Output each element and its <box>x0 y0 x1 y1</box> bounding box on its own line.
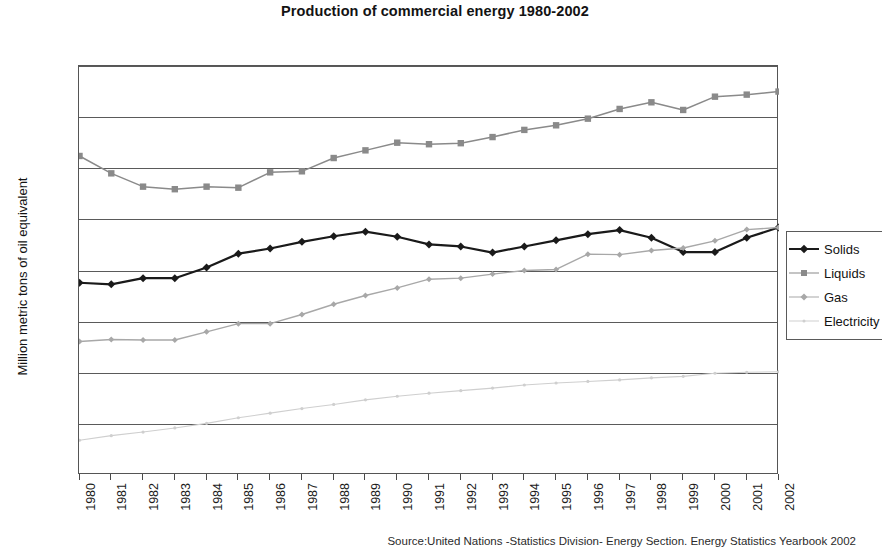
data-point <box>172 337 178 343</box>
data-point <box>394 285 400 291</box>
x-tick-mark <box>110 474 111 480</box>
data-point <box>299 168 305 174</box>
data-point <box>427 392 430 395</box>
data-point <box>140 183 146 189</box>
data-point <box>554 381 557 384</box>
chart-legend: SolidsLiquidsGasElectricity <box>786 231 882 340</box>
data-point <box>364 398 367 401</box>
x-axis: 1980198119821983198419851986198719881989… <box>78 474 778 544</box>
x-tick-label: 1993 <box>497 483 511 511</box>
x-tick-mark <box>682 474 683 480</box>
legend-label: Gas <box>824 290 848 305</box>
x-tick-label: 1995 <box>560 483 574 511</box>
data-point <box>266 245 274 253</box>
data-point <box>173 426 176 429</box>
data-point <box>362 147 368 153</box>
legend-item-electricity[interactable]: Electricity <box>787 309 882 333</box>
data-point <box>459 389 462 392</box>
data-point <box>426 276 432 282</box>
x-tick-mark <box>237 474 238 480</box>
x-tick-mark <box>333 474 334 480</box>
data-point <box>79 339 83 345</box>
data-point <box>458 140 464 146</box>
data-point <box>394 139 400 145</box>
data-point <box>361 228 369 236</box>
x-tick-mark <box>778 474 779 480</box>
x-tick-mark <box>619 474 620 480</box>
data-point <box>79 279 84 287</box>
x-tick-label: 1980 <box>84 483 98 511</box>
data-point <box>648 248 654 254</box>
x-tick-mark <box>142 474 143 480</box>
data-point <box>490 271 496 277</box>
legend-swatch-icon <box>789 243 819 255</box>
x-tick-label: 1984 <box>211 483 225 511</box>
x-tick-label: 2000 <box>719 483 733 511</box>
x-tick-label: 1991 <box>433 483 447 511</box>
data-point <box>362 293 368 299</box>
x-tick-label: 1988 <box>338 483 352 511</box>
data-point <box>140 337 146 343</box>
data-point <box>172 186 178 192</box>
data-point <box>520 242 528 250</box>
x-tick-mark <box>460 474 461 480</box>
data-point <box>552 236 560 244</box>
data-point <box>235 321 241 327</box>
data-point <box>237 416 240 419</box>
x-tick-label: 1998 <box>655 483 669 511</box>
x-tick-label: 2002 <box>783 483 797 511</box>
x-tick-label: 2001 <box>751 483 765 511</box>
data-point <box>458 275 464 281</box>
legend-label: Solids <box>824 242 859 257</box>
x-tick-mark <box>587 474 588 480</box>
x-tick-label: 1983 <box>179 483 193 511</box>
legend-item-solids[interactable]: Solids <box>787 237 882 261</box>
x-tick-mark <box>492 474 493 480</box>
data-point <box>267 169 273 175</box>
x-tick-label: 1982 <box>147 483 161 511</box>
data-point <box>141 430 144 433</box>
legend-item-gas[interactable]: Gas <box>787 285 882 309</box>
data-point <box>489 134 495 140</box>
x-tick-mark <box>174 474 175 480</box>
data-point <box>269 412 272 415</box>
x-tick-mark <box>206 474 207 480</box>
series-plot <box>79 66 779 475</box>
series-line <box>80 92 779 190</box>
data-point <box>617 252 623 258</box>
data-point <box>234 250 242 258</box>
legend-item-liquids[interactable]: Liquids <box>787 261 882 285</box>
data-point <box>586 380 589 383</box>
x-tick-label: 1994 <box>528 483 542 511</box>
data-point <box>107 280 115 288</box>
data-point <box>110 434 113 437</box>
data-point <box>108 337 114 343</box>
x-tick-mark <box>714 474 715 480</box>
x-tick-mark <box>746 474 747 480</box>
data-point <box>743 234 751 242</box>
data-point <box>79 439 81 442</box>
series-line <box>80 228 779 285</box>
plot-area <box>78 65 778 474</box>
data-point <box>298 238 306 246</box>
series-liquids <box>79 88 779 192</box>
data-point <box>396 395 399 398</box>
data-point <box>332 403 335 406</box>
data-point <box>745 371 748 374</box>
data-point <box>489 249 497 257</box>
data-point <box>393 233 401 241</box>
x-tick-mark <box>650 474 651 480</box>
legend-label: Liquids <box>824 266 865 281</box>
data-point <box>491 386 494 389</box>
source-note: Source:United Nations -Statistics Divisi… <box>0 535 856 547</box>
data-point <box>585 115 591 121</box>
legend-swatch-icon <box>789 315 819 327</box>
chart-title: Production of commercial energy 1980-200… <box>0 3 870 19</box>
data-point <box>712 93 718 99</box>
data-point <box>523 383 526 386</box>
x-tick-mark <box>523 474 524 480</box>
x-tick-mark <box>396 474 397 480</box>
legend-swatch-icon <box>789 291 819 303</box>
data-point <box>584 230 592 238</box>
legend-label: Electricity <box>824 314 880 329</box>
